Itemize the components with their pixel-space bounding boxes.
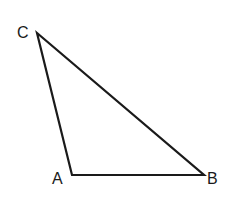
- triangle-abc: [37, 33, 204, 175]
- vertex-label-c: C: [17, 24, 29, 41]
- vertex-label-b: B: [207, 170, 218, 187]
- vertex-label-a: A: [52, 170, 63, 187]
- triangle-diagram: A B C: [0, 0, 240, 205]
